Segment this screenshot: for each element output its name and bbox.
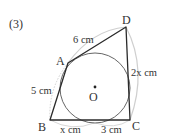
vertex-label-d: D xyxy=(122,13,131,27)
diagram-canvas: (3) D A B C O 6 cm 5 cm 2x cm x cm 3 cm xyxy=(0,0,172,139)
length-b-tangent: x cm xyxy=(60,124,81,135)
length-ab: 5 cm xyxy=(31,85,52,96)
length-ad: 6 cm xyxy=(73,34,94,45)
center-point xyxy=(94,86,97,89)
vertex-label-c: C xyxy=(132,119,140,133)
length-tangent-c: 3 cm xyxy=(101,124,122,135)
vertex-label-b: B xyxy=(38,120,46,134)
length-dc: 2x cm xyxy=(131,67,157,78)
problem-number: (3) xyxy=(9,17,23,31)
vertex-label-a: A xyxy=(56,54,65,68)
center-label-o: O xyxy=(89,90,98,104)
